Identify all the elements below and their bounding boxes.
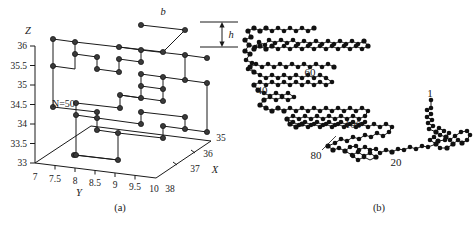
floor-edge-back — [91, 126, 211, 141]
step-label-100: 100 — [345, 118, 362, 130]
z-tick-label-33-5: 33.5 — [10, 139, 27, 149]
panel-a: 36 35.5 35 34.5 34 33.5 33 Z 7 7.5 8 8.5… — [0, 0, 240, 225]
z-tick-label-35: 35 — [18, 80, 28, 90]
random-walk-nodes — [242, 25, 472, 162]
x-axis-ticks — [173, 150, 195, 165]
x-axis-line — [156, 141, 211, 178]
step-label-40: 40 — [257, 84, 269, 96]
y-tick-label-8-5: 8.5 — [89, 178, 101, 188]
lattice-nodes — [50, 22, 209, 162]
x-tick-label-37: 37 — [190, 164, 200, 174]
lattice-chain-3d — [50, 22, 209, 162]
panel-a-plot: 36 35.5 35 34.5 34 33.5 33 Z 7 7.5 8 8.5… — [0, 0, 240, 225]
panel-a-caption: (a) — [114, 202, 126, 214]
y-tick-label-7-5: 7.5 — [49, 174, 61, 184]
panel-b: 1 20 40 60 80 100 (b) — [240, 0, 475, 225]
y-tick-label-8: 8 — [73, 176, 78, 186]
h-arrowhead-up — [219, 22, 224, 28]
y-tick-label-7: 7 — [33, 172, 38, 182]
y-tick-label-10: 10 — [149, 184, 159, 194]
y-axis-name: Y — [76, 187, 83, 198]
h-arrowhead-down — [219, 42, 224, 48]
z-tick-label-33: 33 — [18, 158, 28, 168]
x-tick-label-36: 36 — [203, 149, 213, 159]
z-tick-label-34: 34 — [18, 119, 28, 129]
step-label-20: 20 — [391, 156, 403, 168]
z-tick-label-36: 36 — [18, 41, 28, 51]
x-axis-name: X — [211, 164, 219, 175]
step-label-1: 1 — [427, 87, 433, 99]
figure-container: 36 35.5 35 34.5 34 33.5 33 Z 7 7.5 8 8.5… — [0, 0, 475, 225]
h-dimension-label: h — [228, 29, 233, 40]
x-tick-label-35: 35 — [216, 133, 226, 143]
step-label-60: 60 — [305, 66, 317, 78]
y-tick-label-9: 9 — [113, 180, 118, 190]
panel-b-plot: 1 20 40 60 80 100 (b) — [240, 0, 475, 225]
floor-edge-left — [35, 126, 91, 163]
z-axis-name: Z — [25, 25, 31, 36]
z-tick-label-35-5: 35.5 — [10, 61, 27, 71]
z-tick-label-34-5: 34.5 — [10, 100, 27, 110]
panel-b-caption: (b) — [373, 202, 386, 214]
z-axis-ticks — [30, 46, 35, 163]
b-dimension-label: b — [160, 6, 165, 17]
x-tick-label-38: 38 — [165, 184, 175, 194]
chain-length-label: N=50 — [52, 98, 75, 109]
y-tick-label-9-5: 9.5 — [129, 182, 141, 192]
step-label-80: 80 — [311, 149, 323, 161]
